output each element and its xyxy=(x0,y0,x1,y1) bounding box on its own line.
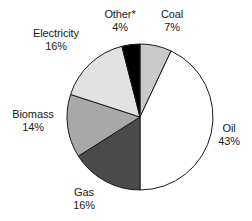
pie-label-oil: Oil 43% xyxy=(208,122,250,147)
pie-label-other: Other* 4% xyxy=(92,8,148,33)
pie-label-coal-name: Coal xyxy=(150,8,194,21)
pie-label-biomass-value: 14% xyxy=(2,121,64,134)
pie-label-oil-name: Oil xyxy=(208,122,250,135)
pie-label-biomass-name: Biomass xyxy=(2,108,64,121)
pie-slice-group xyxy=(67,44,213,190)
pie-label-coal: Coal 7% xyxy=(150,8,194,33)
pie-label-electricity-value: 16% xyxy=(18,40,94,53)
pie-label-coal-value: 7% xyxy=(150,21,194,34)
pie-label-biomass: Biomass 14% xyxy=(2,108,64,133)
pie-label-gas: Gas 16% xyxy=(62,186,106,211)
pie-label-electricity: Electricity 16% xyxy=(18,27,94,52)
pie-label-gas-name: Gas xyxy=(62,186,106,199)
pie-label-oil-value: 43% xyxy=(208,135,250,148)
pie-label-gas-value: 16% xyxy=(62,199,106,212)
pie-label-other-value: 4% xyxy=(92,21,148,34)
pie-chart-figure: Other* 4% Coal 7% Electricity 16% Biomas… xyxy=(0,0,252,221)
pie-label-other-name: Other* xyxy=(92,8,148,21)
pie-label-electricity-name: Electricity xyxy=(18,27,94,40)
